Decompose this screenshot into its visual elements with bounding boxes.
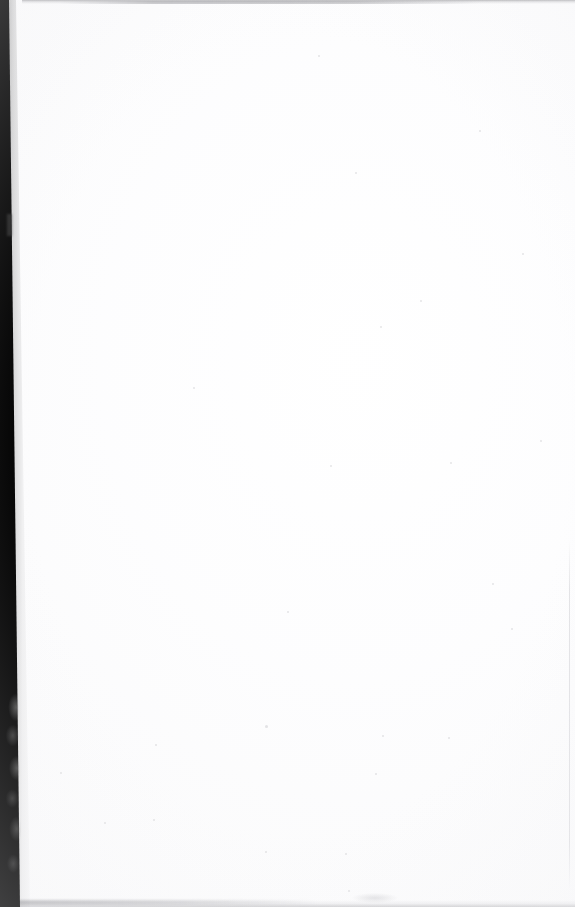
bottom-edge-shadow-curve — [18, 900, 318, 905]
dust-speck — [330, 465, 332, 467]
top-edge-shadow-soft — [60, 1, 480, 4]
dust-speck — [540, 440, 542, 442]
dust-speck — [287, 611, 289, 613]
dust-speck — [265, 851, 267, 853]
dust-speck — [193, 387, 195, 389]
dust-speck — [348, 890, 350, 892]
dust-speck — [153, 819, 155, 821]
dust-speck — [450, 462, 452, 464]
paper-tone-gradient — [0, 0, 575, 907]
dust-speck — [511, 628, 513, 630]
scanned-page — [0, 0, 575, 907]
dust-speck — [492, 583, 494, 585]
paper-surface — [0, 0, 575, 907]
dust-speck — [155, 744, 157, 746]
dust-speck — [318, 55, 320, 57]
dust-speck — [355, 172, 357, 174]
dust-speck — [420, 300, 422, 302]
bottom-edge-smudge — [352, 893, 398, 903]
dust-speck — [375, 773, 377, 775]
dust-speck — [345, 853, 347, 855]
dust-speck — [479, 130, 481, 132]
dust-speck — [265, 725, 268, 728]
gutter-edge-nub — [7, 214, 12, 236]
dust-speck — [448, 737, 450, 739]
dust-speck — [382, 735, 384, 737]
dust-speck — [60, 772, 62, 774]
right-page-boundary-line — [569, 540, 570, 890]
dust-speck — [104, 822, 106, 824]
dust-speck — [522, 253, 524, 255]
dust-speck — [380, 326, 382, 328]
